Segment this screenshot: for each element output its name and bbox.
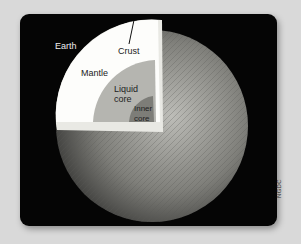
crust-label: Crust (118, 46, 140, 56)
earth-cutaway-diagram (0, 0, 301, 244)
liquid-core-label-1: Liquid (114, 84, 138, 94)
inner-core-label-2: core (134, 114, 150, 124)
mantle-label: Mantle (81, 68, 108, 78)
image-credit: NGDC (276, 179, 282, 198)
inner-core-label-1: Inner (134, 104, 152, 114)
earth-label: Earth (55, 41, 77, 51)
liquid-core-label-2: core (114, 94, 132, 104)
